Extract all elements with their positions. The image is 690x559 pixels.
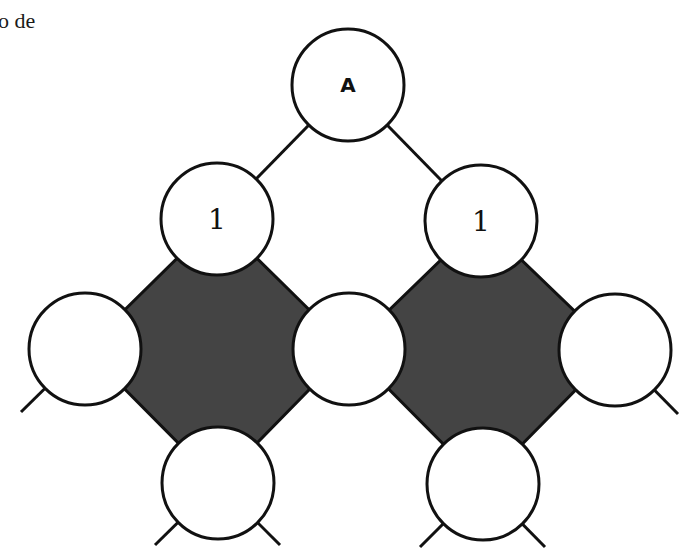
- node-root: A: [292, 29, 404, 141]
- node-mid-right: [559, 294, 671, 406]
- node-right-1: 1: [425, 165, 537, 277]
- node-left-1: 1: [161, 163, 273, 275]
- node-mid-left: [29, 293, 141, 405]
- node-left-1-label: 1: [208, 203, 226, 236]
- node-right-1-label: 1: [472, 205, 490, 238]
- node-bottom-right: [427, 428, 539, 540]
- tree-diagram: A 1 1: [0, 0, 690, 559]
- node-mid-center: [293, 293, 405, 405]
- node-bottom-left: [162, 427, 274, 539]
- node-root-label: A: [340, 73, 356, 97]
